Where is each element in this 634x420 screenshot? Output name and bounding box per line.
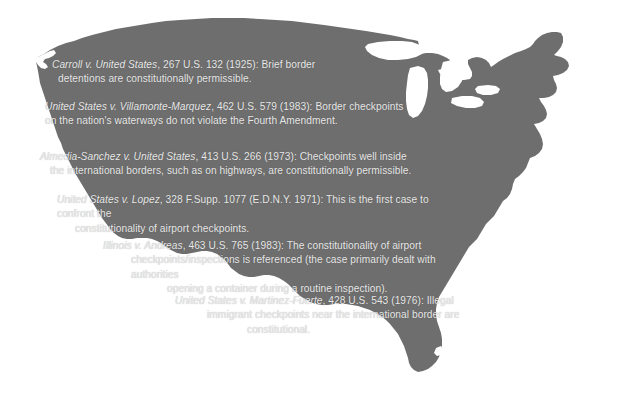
case-name-carroll: Carroll v. United States [52, 59, 157, 70]
case-text-almedia-sanchez-line1: Checkpoints well inside [297, 151, 407, 162]
case-citation-martinez-fuerte: , 428 U.S. 543 (1976): [323, 295, 424, 306]
case-annotations-layer: Carroll v. United States, 267 U.S. 132 (… [0, 0, 634, 420]
case-note-martinez-fuerte: United States v. Martinez-Fuerte, 428 U.… [175, 294, 520, 337]
case-citation-almedia-sanchez: , 413 U.S. 266 (1973): [195, 151, 296, 162]
case-note-lopez: United States v. Lopez, 328 F.Supp. 1077… [57, 193, 443, 236]
case-citation-andreas: , 463 U.S. 765 (1983): [183, 240, 284, 251]
case-name-martinez-fuerte: United States v. Martinez-Fuerte [175, 295, 323, 306]
case-name-lopez: United States v. Lopez [57, 194, 160, 205]
case-citation-villamonte-marquez: , 462 U.S. 579 (1983): [211, 101, 312, 112]
case-text-andreas-line1: The constitutionality of airport [284, 240, 421, 251]
case-text-villamonte-marquez-line2: on the nation's waterways do not violate… [45, 114, 413, 128]
case-text-almedia-sanchez-line2: the international borders, such as on hi… [40, 164, 432, 178]
case-note-carroll: Carroll v. United States, 267 U.S. 132 (… [52, 58, 352, 87]
case-text-martinez-fuerte-line2: immigrant checkpoints near the internati… [175, 308, 520, 322]
case-name-villamonte-marquez: United States v. Villamonte-Marquez [45, 101, 211, 112]
case-text-martinez-fuerte-line1: Illegal [424, 295, 454, 306]
figure-container: Carroll v. United States, 267 U.S. 132 (… [0, 0, 634, 420]
case-name-andreas: Illinois v. Andreas [103, 240, 183, 251]
case-note-villamonte-marquez: United States v. Villamonte-Marquez, 462… [45, 100, 413, 129]
case-text-martinez-fuerte-line3: constitutional. [175, 323, 520, 337]
case-note-almedia-sanchez: Almedia-Sanchez v. United States, 413 U.… [40, 150, 432, 179]
case-text-lopez-line2: constitutionality of airport checkpoints… [57, 222, 443, 236]
case-name-almedia-sanchez: Almedia-Sanchez v. United States [40, 151, 195, 162]
case-note-andreas: Illinois v. Andreas, 463 U.S. 765 (1983)… [103, 239, 483, 296]
case-text-carroll-line2: detentions are constitutionally permissi… [52, 72, 352, 86]
case-text-villamonte-marquez-line1: Border checkpoints [313, 101, 404, 112]
case-citation-lopez: , 328 F.Supp. 1077 (E.D.N.Y. 1971): [160, 194, 324, 205]
case-text-andreas-line2: checkpoints/inspections is referenced (t… [103, 253, 483, 282]
case-citation-carroll: , 267 U.S. 132 (1925): [157, 59, 258, 70]
case-text-carroll-line1: Brief border [259, 59, 316, 70]
